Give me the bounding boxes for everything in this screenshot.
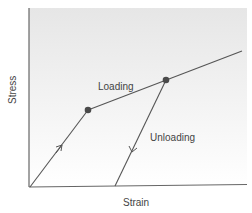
unload-start-marker <box>163 77 170 84</box>
x-axis-label: Strain <box>123 197 149 208</box>
loading-label: Loading <box>98 81 134 92</box>
stress-strain-chart: Loading Unloading Strain Stress <box>0 0 252 213</box>
unloading-label: Unloading <box>150 132 195 143</box>
yield-point-marker <box>85 107 92 114</box>
plot-area-background <box>29 8 247 187</box>
y-axis-label: Stress <box>7 76 18 104</box>
